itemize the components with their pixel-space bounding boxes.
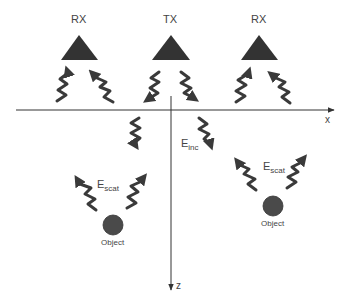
object-right-label: Object <box>261 219 284 228</box>
scattering-diagram <box>0 0 354 301</box>
wave-tx-left-icon <box>147 72 159 100</box>
wave-inc-right-icon <box>199 118 211 146</box>
wave-rx-left-1-icon <box>57 70 68 101</box>
tx-label: TX <box>163 13 177 25</box>
e-inc-label: Einc <box>181 137 199 149</box>
wave-scat-left-1-icon <box>77 179 96 210</box>
e-scat-left-subscript: scat <box>104 184 119 193</box>
z-axis-label: z <box>176 280 181 291</box>
object-left-icon <box>103 215 123 235</box>
wave-rx-left-2-icon <box>92 73 113 102</box>
object-right-icon <box>263 196 283 216</box>
e-scat-left-label: Escat <box>97 178 119 190</box>
wave-scat-left-2-icon <box>127 177 144 208</box>
object-left-label: Object <box>101 238 124 247</box>
wave-scat-right-2-icon <box>287 158 304 188</box>
rx-left-label: RX <box>71 13 86 25</box>
rx-right-label: RX <box>251 13 266 25</box>
rx-right-antenna-icon <box>241 35 278 60</box>
wave-tx-right-icon <box>181 72 195 99</box>
rx-left-antenna-icon <box>61 35 98 60</box>
wave-rx-right-2-icon <box>271 74 290 103</box>
tx-antenna-icon <box>152 35 190 60</box>
wave-inc-left-icon <box>131 118 140 146</box>
wave-scat-right-1-icon <box>237 161 256 190</box>
e-scat-right-subscript: scat <box>270 166 285 175</box>
wave-rx-right-1-icon <box>236 71 249 102</box>
x-axis-label: x <box>325 114 330 125</box>
e-scat-right-label: Escat <box>263 160 285 172</box>
e-inc-subscript: inc <box>188 143 198 152</box>
